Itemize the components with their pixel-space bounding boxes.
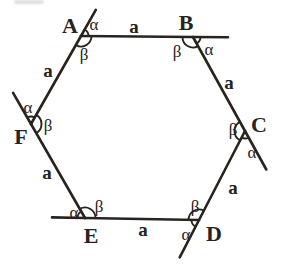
alpha-label-A: α [90, 15, 99, 34]
beta-label-A: β [80, 45, 89, 64]
side-label-BC: a [224, 72, 234, 93]
beta-label-D: β [191, 197, 200, 216]
beta-label-E: β [95, 197, 104, 216]
side-label-DE: a [138, 219, 148, 240]
angle-arc-alpha-F [27, 116, 34, 117]
alpha-label-C: α [248, 143, 257, 162]
beta-label-C: β [229, 120, 238, 139]
alpha-label-E: α [70, 203, 79, 222]
alpha-label-F: α [24, 98, 33, 117]
vertex-label-A: A [62, 13, 78, 38]
figure: aaaaaaAαβBαβCαβDαβEαβFαβ [0, 0, 282, 268]
side-label-AB: a [129, 16, 139, 37]
vertex-label-B: B [179, 10, 194, 35]
alpha-label-D: α [182, 225, 191, 244]
beta-label-F: β [44, 116, 53, 135]
alpha-label-B: α [205, 40, 214, 59]
angle-arc-beta-F [36, 115, 41, 133]
vertex-label-D: D [206, 221, 222, 246]
vertex-label-C: C [251, 112, 267, 137]
side-label-FA: a [43, 60, 53, 81]
side-FA [31, 36, 81, 124]
side-label-CD: a [228, 177, 238, 198]
side-BC [193, 37, 245, 131]
hexagon-diagram: aaaaaaAαβBαβCαβDαβEαβFαβ [0, 0, 282, 268]
scan-artifact [14, 0, 44, 4]
extension-beyond-E [52, 217, 85, 218]
beta-label-B: β [173, 42, 182, 61]
vertex-label-E: E [84, 223, 99, 248]
vertex-label-F: F [14, 124, 27, 149]
side-CD [199, 131, 245, 220]
angle-arc-alpha-C [242, 138, 249, 139]
side-label-EF: a [42, 162, 52, 183]
